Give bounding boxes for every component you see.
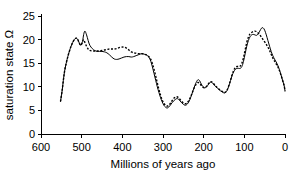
x-tick-label: 400 [113, 141, 131, 153]
axis-labels-layer: 05101520256005004003002001000Millions of… [3, 10, 288, 170]
chart-figure: 05101520256005004003002001000Millions of… [0, 0, 302, 183]
x-tick-label: 100 [235, 141, 253, 153]
x-tick-label: 200 [194, 141, 212, 153]
y-tick-label: 15 [23, 57, 35, 69]
y-tick-label: 5 [29, 104, 35, 116]
series-solid-curve [61, 28, 285, 108]
x-tick-label: 0 [282, 141, 288, 153]
series-dotted-curve [61, 31, 285, 106]
x-tick-label: 300 [154, 141, 172, 153]
y-axis-title: saturation state Ω [3, 29, 15, 120]
axes-layer [38, 14, 285, 138]
y-tick-label: 25 [23, 10, 35, 22]
y-tick-label: 20 [23, 34, 35, 46]
x-tick-label: 500 [72, 141, 90, 153]
y-tick-label: 10 [23, 81, 35, 93]
saturation-state-line-chart: 05101520256005004003002001000Millions of… [0, 0, 302, 183]
x-tick-label: 600 [32, 141, 50, 153]
y-tick-label: 0 [29, 128, 35, 140]
x-axis-title: Millions of years ago [111, 158, 216, 170]
data-series-layer [61, 28, 285, 108]
